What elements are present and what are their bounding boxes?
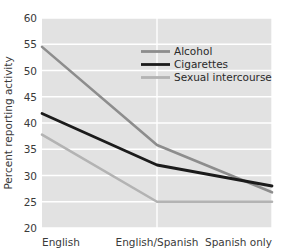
x-tick-label-english: English — [42, 236, 80, 248]
x-tick-label-spanish-only: Spanish only — [205, 236, 272, 248]
y-tick-label-20: 20 — [24, 222, 37, 234]
legend-label-sexual-intercourse: Sexual intercourse — [174, 71, 272, 83]
y-axis-title: Percent reporting activity — [2, 56, 14, 189]
y-tick-label-35: 35 — [24, 143, 37, 155]
y-tick-label-60: 60 — [24, 12, 37, 24]
y-tick-label-40: 40 — [24, 117, 37, 129]
y-tick-label-55: 55 — [24, 38, 37, 50]
y-tick-label-45: 45 — [24, 91, 37, 103]
chart-svg: 60 55 50 45 40 35 30 25 20 English Engli… — [0, 0, 307, 252]
legend-label-cigarettes: Cigarettes — [174, 58, 228, 70]
y-tick-label-30: 30 — [24, 170, 37, 182]
x-tick-label-english-spanish: English/Spanish — [116, 236, 199, 248]
y-tick-label-50: 50 — [24, 65, 37, 77]
legend-label-alcohol: Alcohol — [174, 45, 212, 57]
y-tick-label-25: 25 — [24, 196, 37, 208]
line-chart: 60 55 50 45 40 35 30 25 20 English Engli… — [0, 0, 307, 252]
y-tick-labels: 60 55 50 45 40 35 30 25 20 — [24, 12, 37, 234]
x-tick-labels: English English/Spanish Spanish only — [42, 236, 272, 248]
